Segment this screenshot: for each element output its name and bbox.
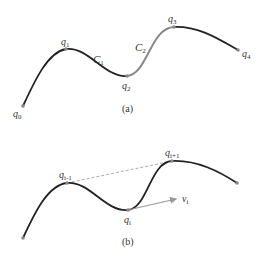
diagram-b: qi-1 qi qi+1 vi (b) — [21, 147, 239, 248]
point-end — [235, 181, 239, 185]
label-c2: C2 — [135, 41, 146, 55]
label-q1: q1 — [61, 36, 70, 49]
caption-a: (a) — [122, 103, 133, 115]
point-qi — [126, 208, 130, 212]
label-qi: qi — [124, 214, 131, 227]
point-start — [21, 236, 25, 240]
point-q0 — [21, 104, 25, 108]
diagram-a: q0 q1 C1 q2 C2 q3 q4 (a) — [13, 13, 251, 121]
diagram-canvas: q0 q1 C1 q2 C2 q3 q4 (a) qi-1 qi qi+1 vi… — [0, 0, 261, 258]
point-q4 — [236, 48, 240, 52]
point-q2 — [125, 74, 129, 78]
label-qi+1: qi+1 — [165, 147, 180, 160]
label-vi: vi — [182, 193, 188, 206]
label-q4: q4 — [242, 48, 251, 61]
label-qi-1: qi-1 — [59, 169, 72, 182]
caption-b: (b) — [122, 236, 134, 248]
curve-segment-q3-q4 — [174, 27, 238, 50]
label-q2: q2 — [122, 80, 131, 93]
curve-segment-q0-q1 — [23, 49, 66, 106]
vector-vi — [128, 199, 176, 210]
label-q0: q0 — [13, 108, 22, 121]
label-c1: C1 — [93, 53, 104, 67]
label-q3: q3 — [168, 13, 177, 26]
